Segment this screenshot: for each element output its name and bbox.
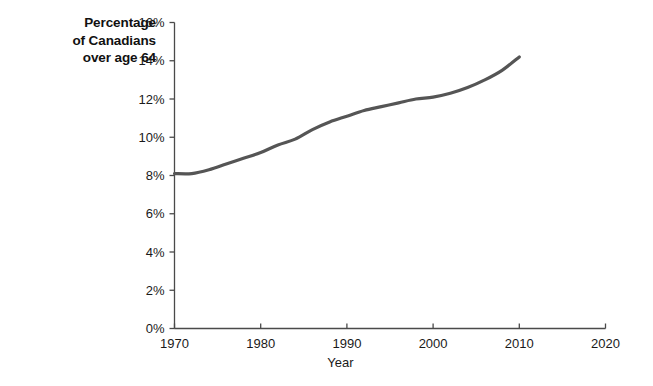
data-series-line (175, 57, 520, 174)
y-tick-label-group: 0%2%4%6%8%10%12%14%16% (138, 15, 164, 336)
chart-container: Percentage of Canadians over age 64 0%2%… (0, 0, 653, 386)
y-tick-label: 4% (146, 245, 165, 260)
y-tick-mark-group (170, 23, 175, 329)
y-tick-label: 16% (138, 15, 164, 30)
x-tick-label: 1970 (160, 336, 189, 351)
x-tick-label: 1980 (246, 336, 275, 351)
x-tick-label-group: 197019801990200020102020 (160, 336, 620, 351)
y-tick-label: 0% (146, 321, 165, 336)
chart-svg: 0%2%4%6%8%10%12%14%16% 19701980199020002… (0, 0, 653, 386)
y-tick-label: 12% (138, 92, 164, 107)
y-tick-label: 10% (138, 130, 164, 145)
x-tick-label: 2010 (505, 336, 534, 351)
x-tick-label: 2020 (591, 336, 620, 351)
x-tick-mark-group (175, 324, 606, 329)
x-tick-label: 2000 (419, 336, 448, 351)
x-tick-label: 1990 (332, 336, 361, 351)
y-tick-label: 6% (146, 206, 165, 221)
y-tick-label: 14% (138, 53, 164, 68)
y-tick-label: 8% (146, 168, 165, 183)
x-axis-title-text: Year (327, 355, 353, 370)
x-axis-title: Year (0, 355, 653, 370)
y-tick-label: 2% (146, 283, 165, 298)
